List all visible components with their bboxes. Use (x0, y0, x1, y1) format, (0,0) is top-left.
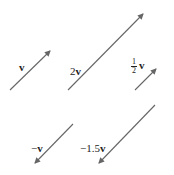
arrow-v (10, 51, 50, 90)
label-v: v (19, 62, 25, 73)
fraction-one-half: 1 2 (131, 58, 137, 75)
label-half-v: 1 2 v (131, 58, 145, 75)
label-2v: 2v (70, 66, 81, 77)
vector-diagram: v 2v 1 2 v −v −1.5v (0, 0, 174, 175)
label-negative-v: −v (31, 143, 43, 154)
label-negative-1-5v: −1.5v (80, 143, 105, 154)
arrow-2v (68, 14, 143, 90)
arrow-negative-1-5v (99, 105, 155, 163)
